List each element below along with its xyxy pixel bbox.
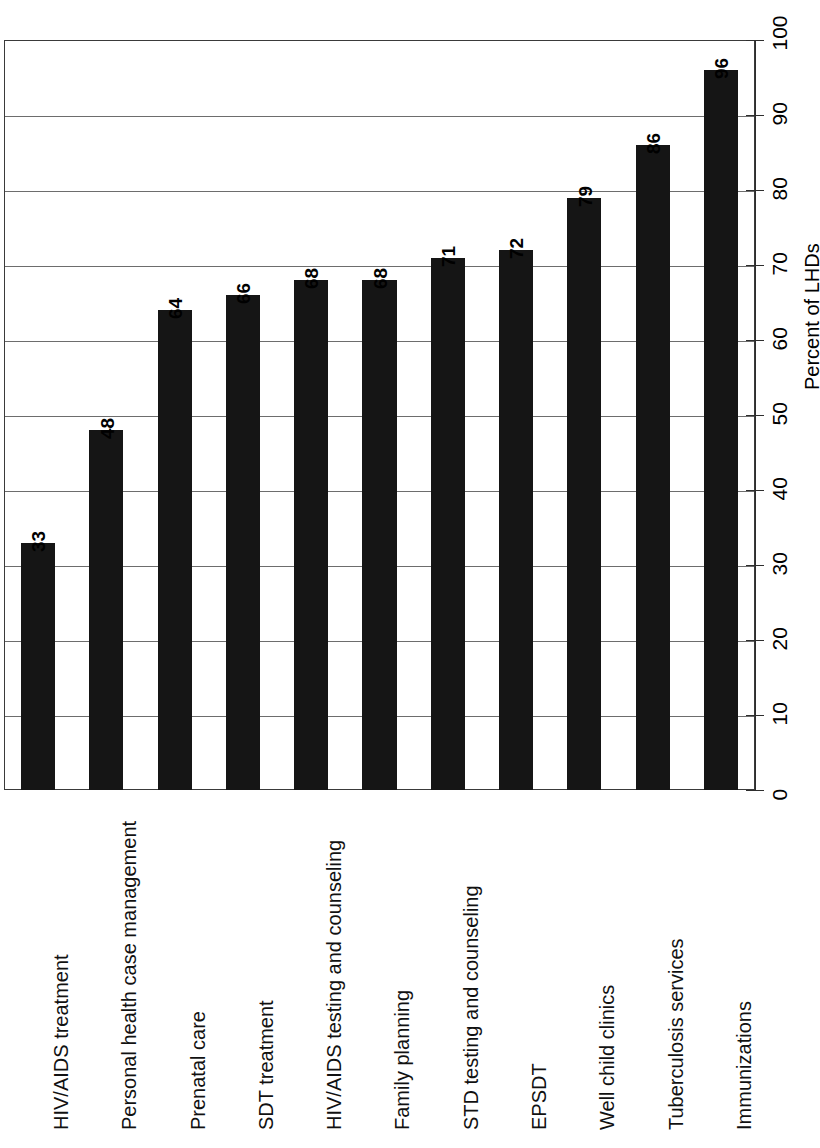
category-label: Well child clinics	[597, 985, 617, 1130]
category-label: STD testing and counseling	[461, 885, 481, 1130]
bar	[499, 250, 533, 790]
bar	[431, 258, 465, 791]
axis-tick	[746, 40, 764, 41]
bar-value-label: 96	[712, 58, 731, 79]
category-label: Prenatal care	[188, 1011, 208, 1130]
axis-tick	[746, 790, 764, 791]
axis-tick	[746, 190, 764, 191]
value-axis: 0102030405060708090100	[755, 40, 820, 790]
category-label: EPSDT	[529, 1063, 549, 1130]
bar-value-label: 86	[644, 133, 663, 154]
bar	[294, 280, 328, 790]
axis-tick	[746, 115, 764, 116]
bar-value-label: 48	[98, 418, 117, 439]
axis-tick-label: 60	[769, 327, 790, 350]
axis-tick-label: 40	[769, 477, 790, 500]
bar	[89, 430, 123, 790]
bar-value-label: 79	[576, 185, 595, 206]
bar-value-label: 64	[166, 298, 185, 319]
bars-layer: 3348646668687172798696	[4, 40, 755, 790]
axis-tick	[746, 490, 764, 491]
category-label: HIV/AIDS treatment	[51, 954, 71, 1130]
bar	[636, 145, 670, 790]
axis-tick	[746, 565, 764, 566]
category-label: Personal health case management	[119, 821, 139, 1130]
axis-tick	[746, 340, 764, 341]
axis-tick-label: 20	[769, 627, 790, 650]
axis-tick	[746, 640, 764, 641]
category-label: SDT treatment	[256, 1000, 276, 1130]
bar	[226, 295, 260, 790]
category-label: HIV/AIDS testing and counseling	[324, 840, 344, 1130]
bar	[158, 310, 192, 790]
bar-value-label: 68	[302, 268, 321, 289]
axis-tick-label: 50	[769, 402, 790, 425]
bar-value-label: 72	[507, 238, 526, 259]
bar	[21, 543, 55, 791]
axis-tick-label: 30	[769, 552, 790, 575]
category-label: Tuberculosis services	[666, 938, 686, 1130]
axis-tick-label: 100	[769, 15, 790, 50]
bar	[362, 280, 396, 790]
axis-tick-label: 10	[769, 702, 790, 725]
axis-tick	[746, 415, 764, 416]
bar-value-label: 71	[439, 245, 458, 266]
bar-value-label: 66	[234, 283, 253, 304]
axis-title: Percent of LHDs	[802, 243, 820, 390]
axis-tick	[746, 265, 764, 266]
bar	[704, 70, 738, 790]
bar	[567, 198, 601, 791]
axis-tick-label: 90	[769, 102, 790, 125]
bar-value-label: 68	[371, 268, 390, 289]
axis-tick-label: 0	[769, 789, 790, 801]
axis-tick	[746, 715, 764, 716]
axis-tick-label: 80	[769, 177, 790, 200]
bar-value-label: 33	[29, 530, 48, 551]
axis-tick-label: 70	[769, 252, 790, 275]
category-labels: HIV/AIDS treatmentPersonal health case m…	[4, 800, 755, 1140]
category-label: Immunizations	[734, 1001, 754, 1130]
category-label: Family planning	[392, 990, 412, 1130]
chart-page: 3348646668687172798696 01020304050607080…	[0, 0, 820, 1148]
